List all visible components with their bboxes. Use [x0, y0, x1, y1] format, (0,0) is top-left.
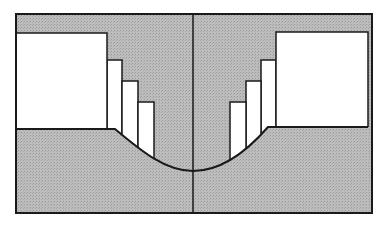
- left-white-block: [16, 33, 107, 129]
- right-white-block: [276, 32, 368, 127]
- cross-section-diagram: [0, 0, 384, 225]
